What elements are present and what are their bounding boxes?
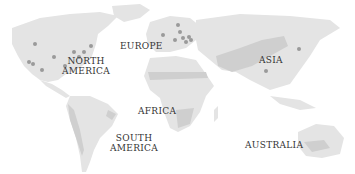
southeast-asia-islands xyxy=(270,96,316,110)
greenland-landmass xyxy=(112,4,150,22)
region-label-europe: EUROPE xyxy=(120,41,163,51)
region-label-australia: AUSTRALIA xyxy=(245,140,303,150)
madagascar-landmass xyxy=(214,106,218,122)
central-america-landmass xyxy=(40,80,70,98)
region-label-north-america: NORTH AMERICA xyxy=(62,56,110,76)
region-label-asia: ASIA xyxy=(259,55,283,65)
region-label-africa: AFRICA xyxy=(138,106,176,116)
world-map: NORTH AMERICA EUROPE ASIA AFRICA SOUTH A… xyxy=(0,0,355,174)
region-label-south-america: SOUTH AMERICA xyxy=(110,133,158,153)
southern-africa-zone xyxy=(176,108,194,128)
